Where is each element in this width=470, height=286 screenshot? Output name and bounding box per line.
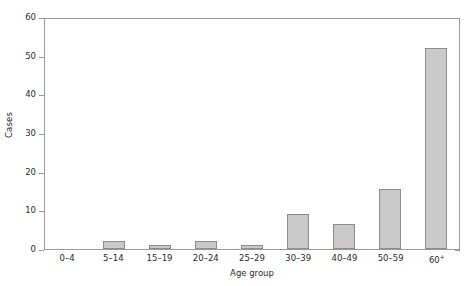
plot-area bbox=[44, 18, 460, 250]
bar bbox=[103, 241, 126, 249]
bars-layer bbox=[45, 19, 459, 249]
y-axis-tick-label: 10 bbox=[25, 205, 36, 215]
bar bbox=[149, 245, 172, 249]
bar-slot bbox=[45, 19, 91, 249]
bar-chart-figure: Cases 0102030405060 0–45–1415–1920–2425–… bbox=[0, 0, 470, 286]
y-axis-tick-mark bbox=[39, 250, 44, 251]
y-axis-title-text: Cases bbox=[4, 112, 14, 138]
x-axis-tick-label: 25–29 bbox=[229, 253, 275, 267]
y-axis-title: Cases bbox=[0, 0, 18, 250]
x-axis-tick-label: 30–39 bbox=[275, 253, 321, 267]
x-axis-tick-label: 60+ bbox=[414, 253, 460, 267]
bar bbox=[241, 245, 264, 249]
bar bbox=[333, 224, 356, 249]
bar-slot bbox=[229, 19, 275, 249]
y-axis-tick-label: 20 bbox=[25, 167, 36, 177]
bar bbox=[425, 48, 448, 249]
bar-slot bbox=[321, 19, 367, 249]
bar bbox=[195, 241, 218, 249]
bar-slot bbox=[183, 19, 229, 249]
bar bbox=[287, 214, 310, 249]
x-axis-tick-label: 40–49 bbox=[321, 253, 367, 267]
y-axis-tick-label: 0 bbox=[31, 244, 36, 254]
y-axis-tick-label: 50 bbox=[25, 51, 36, 61]
x-axis-tick-label: 15–19 bbox=[136, 253, 182, 267]
x-axis-tick-label: 20–24 bbox=[183, 253, 229, 267]
x-axis-tick-label: 50–59 bbox=[368, 253, 414, 267]
bar bbox=[379, 189, 402, 249]
bar-slot bbox=[367, 19, 413, 249]
bar-slot bbox=[413, 19, 459, 249]
x-axis-tick-label: 0–4 bbox=[44, 253, 90, 267]
y-axis-tick-label: 40 bbox=[25, 89, 36, 99]
x-axis-tick-labels: 0–45–1415–1920–2425–2930–3940–4950–5960+ bbox=[44, 253, 460, 267]
bar-slot bbox=[137, 19, 183, 249]
x-axis-title: Age group bbox=[44, 268, 460, 278]
y-axis-tick-mark-right bbox=[455, 250, 460, 251]
y-axis-tick-label: 30 bbox=[25, 128, 36, 138]
y-axis-tick-label: 60 bbox=[25, 12, 36, 22]
x-axis-tick-label: 5–14 bbox=[90, 253, 136, 267]
bar-slot bbox=[275, 19, 321, 249]
bar-slot bbox=[91, 19, 137, 249]
